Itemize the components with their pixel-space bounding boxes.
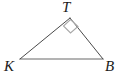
vertex-label-b: B <box>105 59 114 74</box>
edge-k-t <box>20 18 70 59</box>
triangle-diagram-svg <box>0 0 121 78</box>
vertex-label-k: K <box>4 59 14 74</box>
geometry-figure: T K B <box>0 0 121 78</box>
vertex-label-t: T <box>62 0 70 15</box>
